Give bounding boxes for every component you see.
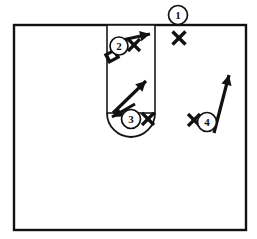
basketball-play-diagram: Basketball Half-Court Play Diagram 1234 bbox=[0, 0, 257, 239]
player-3: 3 bbox=[122, 110, 141, 129]
defender-x-1 bbox=[173, 32, 186, 45]
play-diagram-root: Basketball Half-Court Play Diagram 1234 bbox=[0, 0, 257, 239]
player-1: 1 bbox=[169, 6, 188, 25]
player-2-label: 2 bbox=[116, 40, 122, 52]
player-4-label: 4 bbox=[204, 116, 210, 128]
player-4: 4 bbox=[198, 113, 217, 132]
player-3-label: 3 bbox=[128, 113, 134, 125]
player-2: 2 bbox=[110, 37, 128, 55]
defender-x-3 bbox=[142, 113, 154, 125]
player-1-label: 1 bbox=[175, 9, 181, 21]
